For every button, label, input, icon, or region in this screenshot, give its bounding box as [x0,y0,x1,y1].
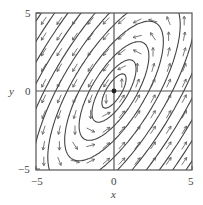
arrow-icon [42,79,46,87]
arrow-icon [182,95,186,103]
arrow-icon [136,79,140,87]
arrow-icon [118,49,125,54]
y-axis-label: y [9,86,14,97]
y-tick-neg5: −5 [18,164,30,175]
arrow-icon [42,141,45,150]
arrow-icon [73,79,77,87]
y-tick-0: 0 [25,86,31,97]
arrow-icon [151,95,155,103]
arrow-icon [183,48,186,57]
arrow-icon [118,18,125,24]
arrow-icon [87,128,95,132]
x-tick-5: 5 [188,176,194,187]
arrow-icon [166,95,170,103]
arrow-icon [58,157,62,165]
arrow-icon [166,111,171,119]
arrow-icon [167,79,171,87]
x-axis-label: x [111,189,116,200]
arrow-icon [167,17,171,25]
arrow-icon [182,157,187,164]
x-tick-neg5: −5 [31,176,43,187]
trajectory-curve [15,0,203,205]
arrow-icon [166,142,171,149]
arrow-icon [58,126,61,135]
arrow-icon [57,64,62,72]
arrow-icon [73,142,78,149]
arrow-icon [133,19,141,23]
arrow-icon [103,127,110,132]
arrow-icon [150,158,155,165]
arrow-icon [87,159,95,163]
arrow-icon [151,33,156,40]
arrow-icon [57,33,62,40]
arrow-icon [103,158,110,164]
arrow-icon [151,48,154,57]
arrow-icon [151,111,156,119]
arrow-icon [151,79,155,87]
arrow-icon [72,17,77,24]
arrow-icon [167,48,170,57]
arrow-icon [120,79,123,88]
arrow-icon [73,126,76,135]
arrow-icon [166,126,171,134]
arrow-icon [103,33,109,40]
arrow-icon [58,141,61,150]
arrow-icon [135,142,140,149]
arrow-icon [135,126,140,133]
arrow-icon [183,32,186,41]
arrow-icon [133,50,141,54]
arrow-icon [152,63,155,72]
arrow-icon [133,35,142,38]
arrow-icon [105,94,108,103]
arrow-icon [73,95,77,103]
arrow-icon [118,66,126,70]
arrow-icon [89,95,93,103]
arrow-icon [42,126,45,135]
arrow-icon [88,33,93,40]
y-tick-5: 5 [25,8,31,19]
arrow-icon [119,142,125,149]
arrow-icon [41,33,46,41]
equilibrium-point [112,89,117,94]
arrow-icon [57,95,61,103]
arrow-icon [41,17,46,24]
arrow-icon [57,79,61,87]
arrow-icon [73,110,76,119]
arrow-icon [86,144,95,147]
arrow-icon [88,48,93,55]
arrow-icon [102,112,110,116]
arrow-icon [183,16,186,25]
arrow-icon [57,48,62,56]
arrow-icon [42,157,45,166]
arrow-icon [73,64,78,72]
x-tick-0: 0 [111,176,117,187]
arrow-icon [182,142,187,150]
arrow-icon [167,32,170,41]
